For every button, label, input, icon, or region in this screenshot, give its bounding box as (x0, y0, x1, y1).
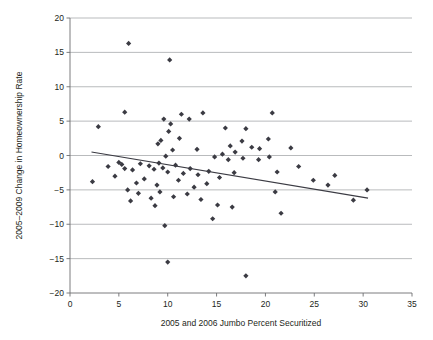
data-point (288, 145, 293, 150)
data-point (256, 157, 261, 162)
data-point (167, 57, 172, 62)
data-point (191, 185, 196, 190)
data-point (106, 164, 111, 169)
chart-canvas: −20−15−10−505101520 05101520253035 2005 … (0, 0, 433, 340)
data-point (125, 187, 130, 192)
data-point (226, 157, 231, 162)
y-tick-label--10: −10 (50, 219, 65, 229)
data-point (96, 124, 101, 129)
y-axis-ticks: −20−15−10−505101520 (50, 13, 70, 298)
gridlines (70, 18, 412, 259)
y-tick-label-10: 10 (55, 82, 65, 92)
y-tick-label-5: 5 (59, 116, 64, 126)
data-point (233, 149, 238, 154)
data-point (220, 152, 225, 157)
data-point (134, 180, 139, 185)
data-point (200, 110, 205, 115)
data-point (112, 174, 117, 179)
data-point (364, 187, 369, 192)
data-point (136, 191, 141, 196)
data-point (122, 166, 127, 171)
x-tick-label-0: 0 (68, 299, 73, 309)
data-point (296, 164, 301, 169)
data-point (198, 197, 203, 202)
data-point (170, 147, 175, 152)
data-point (126, 41, 131, 46)
data-point (166, 129, 171, 134)
y-tick-label-15: 15 (55, 47, 65, 57)
data-point (177, 136, 182, 141)
data-point (243, 126, 248, 131)
data-point (278, 211, 283, 216)
data-point (151, 167, 156, 172)
x-tick-label-25: 25 (310, 299, 320, 309)
y-tick-label--20: −20 (50, 288, 65, 298)
data-point (158, 138, 163, 143)
data-point (266, 136, 271, 141)
data-point (332, 173, 337, 178)
data-point (217, 175, 222, 180)
data-point (185, 191, 190, 196)
data-point (249, 145, 254, 150)
data-point (240, 156, 245, 161)
data-point (154, 182, 159, 187)
x-tick-label-30: 30 (358, 299, 368, 309)
data-point (142, 176, 147, 181)
y-axis-title-text: 2005–2009 Change in Homeownership Rate (14, 71, 24, 239)
x-tick-label-10: 10 (163, 299, 173, 309)
data-points (90, 41, 370, 279)
data-point (165, 259, 170, 264)
data-point (171, 194, 176, 199)
x-axis-ticks: 05101520253035 (68, 293, 417, 309)
data-point (160, 165, 165, 170)
x-tick-label-5: 5 (116, 299, 121, 309)
data-point (243, 273, 248, 278)
data-point (239, 138, 244, 143)
data-point (232, 170, 237, 175)
data-point (147, 163, 152, 168)
data-point (275, 169, 280, 174)
y-tick-label--5: −5 (54, 185, 64, 195)
data-point (267, 154, 272, 159)
scatter-chart-figure: −20−15−10−505101520 05101520253035 2005 … (0, 0, 433, 340)
data-point (122, 110, 127, 115)
data-point (149, 196, 154, 201)
data-point (138, 161, 143, 166)
data-point (152, 203, 157, 208)
data-point (325, 182, 330, 187)
data-point (351, 198, 356, 203)
y-axis-title: 2005–2009 Change in Homeownership Rate (14, 71, 24, 239)
data-point (179, 112, 184, 117)
data-point (204, 181, 209, 186)
data-point (212, 154, 217, 159)
y-tick-label-0: 0 (59, 151, 64, 161)
data-point (223, 125, 228, 130)
data-point (130, 167, 135, 172)
data-point (195, 172, 200, 177)
data-point (194, 147, 199, 152)
data-point (257, 146, 262, 151)
data-point (163, 154, 168, 159)
data-point (90, 179, 95, 184)
data-point (176, 178, 181, 183)
data-point (162, 223, 167, 228)
data-point (165, 169, 170, 174)
data-point (228, 143, 233, 148)
x-tick-label-20: 20 (261, 299, 271, 309)
y-tick-label-20: 20 (55, 13, 65, 23)
data-point (210, 216, 215, 221)
y-tick-label--15: −15 (50, 254, 65, 264)
data-point (311, 178, 316, 183)
data-point (155, 141, 160, 146)
x-tick-label-35: 35 (407, 299, 417, 309)
data-point (181, 171, 186, 176)
data-point (230, 204, 235, 209)
x-axis-title-text: 2005 and 2006 Jumbo Percent Securitized (161, 318, 322, 328)
data-point (215, 202, 220, 207)
x-axis-title: 2005 and 2006 Jumbo Percent Securitized (161, 318, 322, 328)
data-point (270, 110, 275, 115)
data-point (168, 121, 173, 126)
data-point (173, 163, 178, 168)
x-tick-label-15: 15 (212, 299, 222, 309)
data-point (128, 198, 133, 203)
